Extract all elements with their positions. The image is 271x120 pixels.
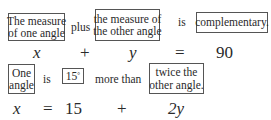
connector-is: is [178, 16, 186, 28]
phrase-line: The measure [7, 15, 66, 28]
phrase-box-one-angle: The measure of one angle [8, 13, 65, 41]
phrase-box-complementary: complementary. [196, 12, 268, 33]
phrase-line: the other angle [93, 25, 161, 38]
equation1-term-x: x [33, 44, 41, 62]
connector-more-than: more than [95, 73, 141, 85]
equation2-equals: = [43, 100, 53, 118]
equation1-plus: + [80, 44, 90, 62]
phrase-box-15-degrees: 15° [62, 68, 84, 84]
equation2-term-x: x [13, 100, 21, 118]
phrase-line: angle [9, 79, 34, 92]
phrase-box-other-angle: the measure of the other angle [95, 9, 160, 41]
equation2-plus: + [117, 100, 127, 118]
equation1-term-y: y [129, 44, 137, 62]
equation1-equals: = [175, 44, 185, 62]
value-15: 15 [66, 70, 78, 82]
degree-symbol: ° [77, 71, 80, 79]
connector-plus: plus [71, 21, 90, 33]
phrase-line: other angle. [149, 79, 203, 92]
phrase-line: the measure of [94, 13, 162, 26]
equation2-term-15: 15 [65, 100, 82, 118]
phrase-box-twice-other-angle: twice the other angle. [149, 63, 204, 94]
equation1-term-90: 90 [216, 44, 233, 62]
phrase-line: twice the [156, 66, 198, 79]
phrase-line: One [12, 67, 31, 80]
phrase-line: of one angle [8, 27, 65, 40]
equation2-term-2y: 2y [168, 100, 184, 118]
phrase-line: complementary. [195, 16, 269, 29]
phrase-box-one-angle-2: One angle [8, 64, 35, 94]
connector-is-2: is [43, 73, 51, 85]
